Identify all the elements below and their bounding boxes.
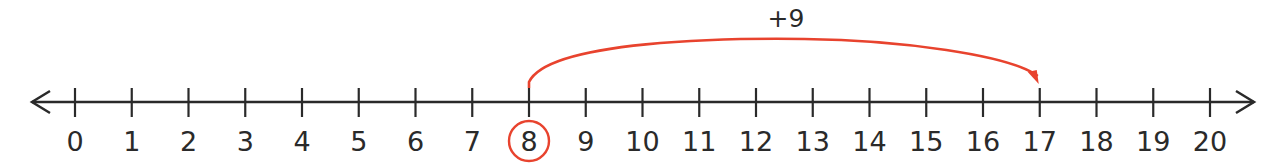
tick-label: 17	[1023, 126, 1057, 157]
tick-label: 6	[407, 126, 424, 157]
tick-label: 15	[909, 126, 943, 157]
tick-label: 11	[682, 126, 716, 157]
jump-arc	[529, 39, 1039, 88]
tick-label: 0	[66, 126, 83, 157]
tick-label: 2	[180, 126, 197, 157]
tick-label: 12	[739, 126, 773, 157]
tick-label: 1	[123, 126, 140, 157]
arrowhead-icon	[1028, 70, 1039, 84]
tick-marks	[75, 88, 1210, 117]
jump-label: +9	[768, 4, 805, 33]
tick-label: 19	[1136, 126, 1170, 157]
tick-label: 5	[350, 126, 367, 157]
number-line-diagram: 01234567891011121314151617181920 +9	[0, 0, 1272, 168]
tick-label: 3	[237, 126, 254, 157]
tick-label: 10	[625, 126, 659, 157]
tick-label: 14	[852, 126, 886, 157]
tick-label: 4	[293, 126, 310, 157]
tick-label: 8	[520, 126, 537, 157]
tick-label: 13	[796, 126, 830, 157]
tick-label: 16	[966, 126, 1000, 157]
tick-label: 9	[577, 126, 594, 157]
tick-labels: 01234567891011121314151617181920	[66, 126, 1227, 157]
tick-label: 20	[1193, 126, 1227, 157]
tick-label: 7	[464, 126, 481, 157]
tick-label: 18	[1079, 126, 1113, 157]
jump-arc-path	[529, 39, 1038, 88]
